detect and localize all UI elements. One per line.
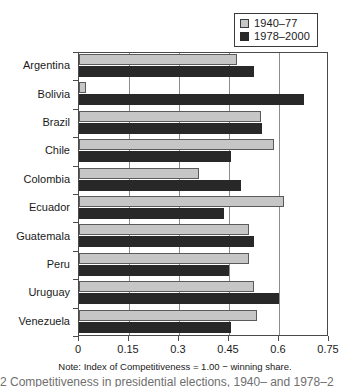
bar-uruguay-1940-77 <box>79 281 254 292</box>
legend-item-1978-2000: 1978–2000 <box>240 30 310 43</box>
bar-group-peru <box>79 252 327 280</box>
y-axis-label-ecuador: Ecuador <box>0 202 70 213</box>
bar-colombia-1940-77 <box>79 168 199 179</box>
y-axis-label-uruguay: Uruguay <box>0 287 70 298</box>
y-axis-label-colombia: Colombia <box>0 174 70 185</box>
y-tick-5 <box>73 194 78 195</box>
legend-item-1940-77: 1940–77 <box>240 17 310 30</box>
bar-group-brazil <box>79 110 327 138</box>
chart-note: Note: Index of Competitiveness = 1.00 − … <box>0 361 350 372</box>
bar-group-bolivia <box>79 81 327 109</box>
plot-area <box>78 52 328 336</box>
bar-rows <box>79 53 327 335</box>
legend-swatch-light-gray <box>240 19 249 28</box>
competitiveness-bar-chart: 1940–77 1978–2000 ArgentinaBoliviaBrazil… <box>0 0 350 387</box>
bar-group-uruguay <box>79 280 327 308</box>
y-tick-6 <box>73 222 78 223</box>
bar-group-argentina <box>79 53 327 81</box>
y-axis-label-argentina: Argentina <box>0 60 70 71</box>
y-tick-7 <box>73 251 78 252</box>
y-axis-label-peru: Peru <box>0 259 70 270</box>
bar-argentina-1978-2000 <box>79 66 254 77</box>
bar-uruguay-1978-2000 <box>79 293 279 304</box>
bar-group-colombia <box>79 167 327 195</box>
bar-group-chile <box>79 138 327 166</box>
bar-guatemala-1978-2000 <box>79 236 254 247</box>
x-axis-label-0.75: 0.75 <box>303 343 350 355</box>
bar-chile-1978-2000 <box>79 151 231 162</box>
y-tick-3 <box>73 137 78 138</box>
y-axis-label-chile: Chile <box>0 145 70 156</box>
x-axis-label-0.15: 0.15 <box>103 343 153 355</box>
x-axis-label-0: 0 <box>53 343 103 355</box>
y-tick-2 <box>73 109 78 110</box>
chart-legend: 1940–77 1978–2000 <box>234 13 318 47</box>
bar-group-guatemala <box>79 223 327 251</box>
y-tick-4 <box>73 166 78 167</box>
bar-brazil-1978-2000 <box>79 123 262 134</box>
bar-ecuador-1978-2000 <box>79 208 224 219</box>
bar-venezuela-1940-77 <box>79 310 257 321</box>
y-tick-1 <box>73 80 78 81</box>
y-axis-label-bolivia: Bolivia <box>0 89 70 100</box>
y-tick-8 <box>73 279 78 280</box>
x-tick-0.3 <box>178 336 179 341</box>
bar-chile-1940-77 <box>79 139 274 150</box>
x-tick-0.6 <box>278 336 279 341</box>
x-tick-0.45 <box>228 336 229 341</box>
y-tick-9 <box>73 308 78 309</box>
legend-label-1978-2000: 1978–2000 <box>254 31 310 42</box>
x-axis-label-0.3: 0.3 <box>153 343 203 355</box>
y-axis-label-venezuela: Venezuela <box>0 316 70 327</box>
legend-label-1940-77: 1940–77 <box>254 18 298 29</box>
bar-argentina-1940-77 <box>79 54 237 65</box>
bar-group-ecuador <box>79 195 327 223</box>
bar-group-venezuela <box>79 309 327 337</box>
y-tick-0 <box>73 52 78 53</box>
bar-ecuador-1940-77 <box>79 196 284 207</box>
x-axis-label-0.45: 0.45 <box>203 343 253 355</box>
bar-colombia-1978-2000 <box>79 180 241 191</box>
x-tick-0 <box>78 336 79 341</box>
page-caption-strip: 2 Competitiveness in presidential electi… <box>0 375 350 387</box>
bar-guatemala-1940-77 <box>79 224 249 235</box>
bar-peru-1978-2000 <box>79 265 229 276</box>
bar-bolivia-1940-77 <box>79 82 86 93</box>
legend-swatch-dark <box>240 32 249 41</box>
x-tick-0.15 <box>128 336 129 341</box>
bar-bolivia-1978-2000 <box>79 94 304 105</box>
x-tick-0.75 <box>328 336 329 341</box>
x-axis-label-0.6: 0.6 <box>253 343 303 355</box>
bar-brazil-1940-77 <box>79 111 261 122</box>
bar-venezuela-1978-2000 <box>79 322 231 333</box>
y-axis-label-guatemala: Guatemala <box>0 231 70 242</box>
bar-peru-1940-77 <box>79 253 249 264</box>
y-axis-label-brazil: Brazil <box>0 117 70 128</box>
